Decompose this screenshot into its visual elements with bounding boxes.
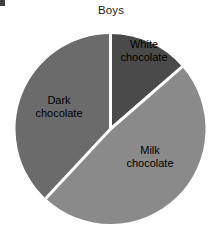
slice-label-dark-chocolate: Dark chocolate	[22, 94, 96, 119]
slice-label-dark-chocolate-line2: chocolate	[22, 107, 96, 120]
slice-label-white-chocolate: White chocolate	[108, 38, 180, 63]
slice-label-dark-chocolate-line1: Dark	[22, 94, 96, 107]
slice-label-milk-chocolate: Milk chocolate	[113, 144, 187, 169]
pie-chart: Boys White chocolate Dark chocolate Milk…	[0, 0, 222, 237]
slice-label-white-chocolate-line1: White	[108, 38, 180, 51]
slice-label-milk-chocolate-line2: chocolate	[113, 157, 187, 170]
slice-label-milk-chocolate-line1: Milk	[113, 144, 187, 157]
slice-label-white-chocolate-line2: chocolate	[108, 51, 180, 64]
